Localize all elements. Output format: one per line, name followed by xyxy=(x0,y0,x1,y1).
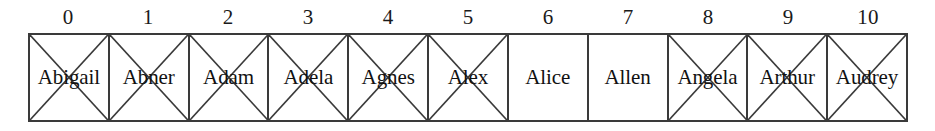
index-label-2: 2 xyxy=(188,2,268,32)
index-label-4: 4 xyxy=(348,2,428,32)
index-label-5: 5 xyxy=(428,2,508,32)
array-cell-5[interactable]: Alex xyxy=(429,35,509,120)
cell-name-label: Abigail xyxy=(38,67,100,88)
cell-name-label: Alex xyxy=(448,67,488,88)
array-cell-3[interactable]: Adela xyxy=(269,35,349,120)
index-label-row: 012345678910 xyxy=(28,2,908,32)
cell-name-label: Adam xyxy=(203,67,254,88)
array-cell-8[interactable]: Angela xyxy=(669,35,749,120)
index-label-10: 10 xyxy=(828,2,908,32)
cell-name-label: Adela xyxy=(284,67,334,88)
array-cell-6[interactable]: Alice xyxy=(509,35,589,120)
cell-name-label: Audrey xyxy=(836,67,898,88)
index-label-3: 3 xyxy=(268,2,348,32)
cell-name-label: Angela xyxy=(677,67,737,88)
cell-name-label: Allen xyxy=(605,67,651,88)
cell-name-label: Arthur xyxy=(760,67,815,88)
array-cell-9[interactable]: Arthur xyxy=(748,35,828,120)
cell-name-label: Abner xyxy=(123,67,175,88)
index-label-0: 0 xyxy=(28,2,108,32)
array-cell-4[interactable]: Agnes xyxy=(349,35,429,120)
index-label-9: 9 xyxy=(748,2,828,32)
index-label-8: 8 xyxy=(668,2,748,32)
cell-name-label: Alice xyxy=(525,67,570,88)
array-cell-1[interactable]: Abner xyxy=(110,35,190,120)
index-label-1: 1 xyxy=(108,2,188,32)
array-cell-2[interactable]: Adam xyxy=(190,35,270,120)
array-table: AbigailAbnerAdamAdelaAgnesAlexAliceAllen… xyxy=(28,33,908,122)
array-cell-0[interactable]: Abigail xyxy=(30,35,110,120)
array-cell-7[interactable]: Allen xyxy=(589,35,669,120)
array-cell-10[interactable]: Audrey xyxy=(828,35,906,120)
index-label-6: 6 xyxy=(508,2,588,32)
cell-name-label: Agnes xyxy=(362,67,415,88)
array-diagram: 012345678910 AbigailAbnerAdamAdelaAgnesA… xyxy=(0,0,935,131)
index-label-7: 7 xyxy=(588,2,668,32)
